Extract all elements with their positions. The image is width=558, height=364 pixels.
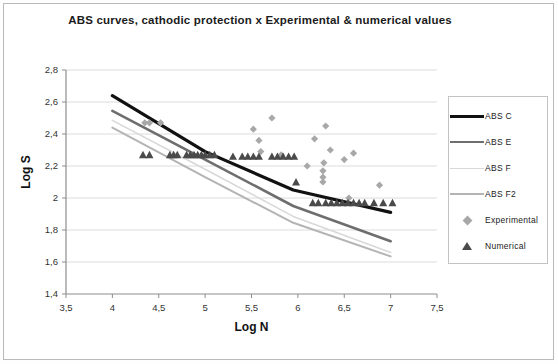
legend-label: ABS E	[485, 137, 512, 147]
legend-item-abs-c[interactable]: ABS C	[449, 105, 549, 127]
x-tick-label: 3,5	[51, 302, 81, 313]
diamond-marker-icon	[462, 215, 472, 225]
x-tick-label: 6,5	[329, 302, 359, 313]
legend-item-abs-f[interactable]: ABS F	[449, 157, 549, 179]
legend-line-icon	[450, 168, 484, 169]
legend-line-swatch	[449, 109, 485, 123]
legend-line-swatch	[449, 187, 485, 201]
legend-line-icon	[450, 115, 484, 118]
legend-diamond-swatch	[449, 213, 485, 227]
legend-item-numerical[interactable]: Numerical	[449, 235, 549, 257]
legend-item-experimental[interactable]: Experimental	[449, 209, 549, 231]
x-axis-title: Log N	[66, 320, 437, 334]
legend-label: ABS C	[485, 111, 512, 121]
x-tick-label: 5,5	[237, 302, 267, 313]
y-tick-label: 2,2	[30, 160, 58, 171]
legend-triangle-swatch	[449, 239, 485, 253]
legend-item-abs-e[interactable]: ABS E	[449, 131, 549, 153]
y-tick-label: 1,4	[30, 288, 58, 299]
legend-label: ABS F	[485, 163, 511, 173]
y-tick-label: 1,6	[30, 256, 58, 267]
x-tick-label: 6	[283, 302, 313, 313]
x-tick-label: 7	[376, 302, 406, 313]
legend-label: Numerical	[485, 241, 526, 251]
plot-background	[66, 70, 437, 294]
legend-line-icon	[450, 193, 484, 195]
chart-legend: ABS CABS EABS FABS F2ExperimentalNumeric…	[448, 96, 548, 264]
y-tick-label: 2	[30, 192, 58, 203]
chart-figure: ABS curves, cathodic protection x Experi…	[0, 0, 558, 364]
x-tick-label: 4,5	[144, 302, 174, 313]
x-tick-label: 4	[97, 302, 127, 313]
triangle-marker-icon	[462, 242, 472, 250]
legend-line-icon	[450, 141, 484, 143]
x-tick-label: 5	[190, 302, 220, 313]
x-tick-label: 7,5	[422, 302, 452, 313]
y-tick-label: 2,4	[30, 128, 58, 139]
y-tick-label: 2,8	[30, 64, 58, 75]
legend-line-swatch	[449, 161, 485, 175]
legend-label: ABS F2	[485, 189, 516, 199]
legend-label: Experimental	[485, 215, 538, 225]
legend-line-swatch	[449, 135, 485, 149]
y-tick-label: 1,8	[30, 224, 58, 235]
legend-item-abs-f2[interactable]: ABS F2	[449, 183, 549, 205]
y-tick-label: 2,6	[30, 96, 58, 107]
